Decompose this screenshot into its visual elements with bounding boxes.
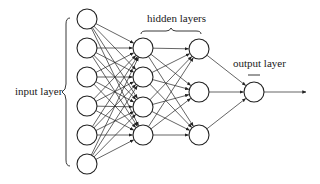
connection-edge <box>152 111 190 130</box>
output-layer-label: output layer <box>233 57 286 69</box>
input-neuron <box>77 125 97 145</box>
hidden-1-neuron <box>133 125 153 145</box>
input-layer-brace <box>62 18 70 166</box>
hidden-2-neuron <box>189 39 209 59</box>
hidden-1-neuron <box>133 97 153 117</box>
hidden-2-neuron <box>189 82 209 102</box>
hidden-1-neuron <box>133 38 153 58</box>
neurons <box>77 9 264 174</box>
input-neuron <box>77 9 97 29</box>
connection-edge <box>92 86 137 156</box>
input-neuron <box>77 96 97 116</box>
input-layer-label: input layer <box>15 85 63 97</box>
connection-edge <box>153 80 189 90</box>
connection-edge <box>207 98 246 128</box>
output-neuron <box>244 82 264 102</box>
hidden-2-neuron <box>189 125 209 145</box>
connection-edge <box>153 95 189 105</box>
input-neuron <box>77 154 97 174</box>
neural-network-diagram: input layer hidden layers output layer <box>0 0 320 184</box>
input-neuron <box>77 67 97 87</box>
hidden-layers-brace <box>141 28 201 34</box>
hidden-1-neuron <box>133 67 153 87</box>
hidden-layers-label: hidden layers <box>147 12 206 24</box>
connection-edge <box>96 24 134 44</box>
connections <box>91 24 245 160</box>
input-neuron <box>77 38 97 58</box>
connection-edge <box>153 48 189 49</box>
